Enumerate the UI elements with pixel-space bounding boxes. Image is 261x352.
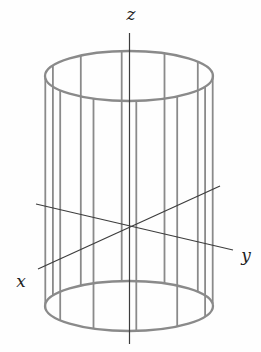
- cylinder-diagram: z x y: [0, 0, 261, 352]
- y-axis-label: y: [240, 245, 251, 265]
- coordinate-axes: [36, 33, 233, 344]
- z-axis-label: z: [126, 4, 137, 24]
- y-axis-line: [36, 204, 233, 250]
- figure-container: z x y: [0, 0, 261, 352]
- x-axis-label: x: [16, 271, 26, 291]
